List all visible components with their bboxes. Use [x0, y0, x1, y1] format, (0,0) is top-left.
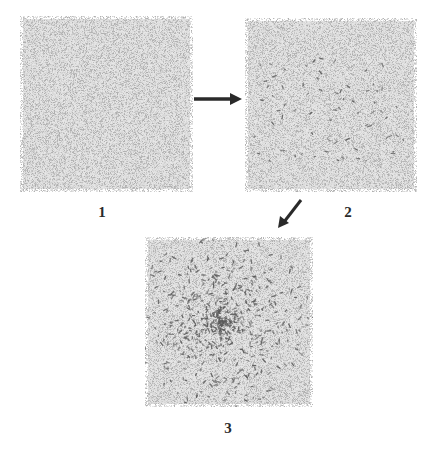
panel-1-initial-state [20, 16, 193, 192]
panel-2-nucleation [245, 18, 417, 192]
panel-1-speckle [20, 16, 193, 192]
panel-label-3: 3 [218, 420, 238, 437]
panel-label-2: 2 [338, 204, 358, 221]
arrow-down-left-icon [276, 198, 304, 230]
panel-2-speckle [245, 18, 417, 192]
panel-label-1: 1 [92, 204, 112, 221]
arrow-right-icon [192, 92, 244, 106]
panel-3-speckle [145, 237, 313, 407]
panel-3-cluster [145, 237, 313, 407]
